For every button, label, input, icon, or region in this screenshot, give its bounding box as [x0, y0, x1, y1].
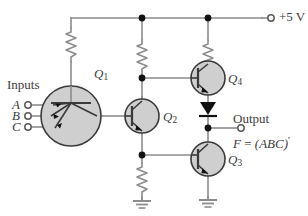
resistor-base	[66, 28, 76, 62]
q2-index: 2	[172, 115, 177, 125]
q4-letter: Q	[228, 71, 237, 86]
node-output	[205, 125, 212, 132]
q2-letter: Q	[163, 109, 172, 124]
resistor-q2-collector	[137, 40, 147, 74]
output-expression: F = (ABC)'	[233, 136, 290, 150]
transistor-q1-label: Q1	[94, 67, 108, 82]
resistor-q2-emitter	[137, 163, 147, 197]
input-c-label: C	[12, 120, 21, 133]
ground-right	[199, 196, 217, 207]
node-rail-mid	[139, 15, 146, 22]
transistor-q4-label: Q4	[228, 72, 242, 87]
transistor-q3	[191, 142, 225, 176]
transistor-q3-label: Q3	[228, 153, 242, 168]
transistor-q1	[41, 86, 101, 146]
circuit-diagram-figure: +5 V Inputs A B C Q1 Q2 Q4 Q3 Output F =…	[0, 0, 308, 216]
q3-index: 3	[237, 158, 242, 168]
output-expr-f: F	[233, 136, 241, 151]
q1-letter: Q	[94, 66, 103, 81]
output-expr-prime: '	[288, 135, 290, 146]
ground-middle	[133, 197, 151, 208]
output-heading: Output	[233, 112, 269, 125]
transistor-q2	[125, 99, 159, 133]
node-q2-collector	[139, 75, 146, 82]
node-rail-right	[205, 15, 212, 22]
schematic-canvas	[0, 0, 308, 216]
q4-index: 4	[237, 77, 242, 87]
q1-index: 1	[103, 72, 108, 82]
output-expr-eq: =	[244, 136, 251, 151]
transistor-q4	[191, 61, 225, 95]
q3-letter: Q	[228, 152, 237, 167]
inputs-heading: Inputs	[7, 78, 40, 91]
terminal-input-c	[25, 124, 31, 130]
output-expr-abc: (ABC)	[255, 136, 288, 151]
terminal-supply	[268, 15, 274, 21]
supply-label: +5 V	[279, 10, 305, 23]
diode-d1	[199, 102, 217, 116]
terminal-input-b	[25, 113, 31, 119]
transistor-q2-label: Q2	[163, 110, 177, 125]
terminal-input-a	[25, 102, 31, 108]
node-q2-emitter	[139, 152, 146, 159]
